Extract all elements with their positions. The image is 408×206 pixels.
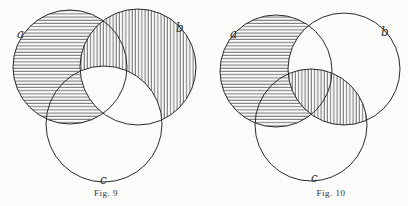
label-c: c <box>311 171 318 185</box>
label-b: b <box>381 25 389 39</box>
caption: Fig. 9 <box>94 188 118 198</box>
label-a: a <box>17 27 24 41</box>
label-c: c <box>100 173 107 187</box>
label-b: b <box>176 21 184 35</box>
label-a: a <box>230 27 237 41</box>
figure-9: a b c Fig. 9 <box>13 9 196 198</box>
caption: Fig. 10 <box>316 188 345 198</box>
figure-10: a b c Fig. 10 <box>220 13 400 198</box>
venn-diagrams: a b c Fig. 9 a b c Fig. 10 <box>0 0 408 206</box>
